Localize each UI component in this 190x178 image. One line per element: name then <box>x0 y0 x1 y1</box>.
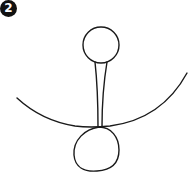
upper-circle <box>83 27 119 63</box>
stem-left <box>95 62 98 127</box>
diagram-figure <box>0 0 190 178</box>
stem-right <box>102 62 107 127</box>
lower-circle <box>74 127 119 171</box>
